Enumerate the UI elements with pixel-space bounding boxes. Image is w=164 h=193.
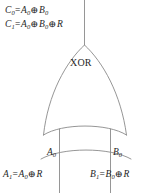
- equation-c0: C0=A0⊕B0: [5, 6, 48, 16]
- equation-c1-term1-sub: 0: [27, 23, 30, 30]
- equation-a1-lhs-sub: 1: [9, 173, 12, 180]
- equation-c1-lhs-sub: 1: [12, 23, 15, 30]
- input-label-b0-sub: 0: [119, 151, 122, 158]
- equation-b1-term1-sub: 0: [111, 173, 114, 180]
- input-label-b0-base: B: [113, 147, 119, 157]
- equation-c1-term1: A: [21, 19, 27, 29]
- equation-c1: C1=A0⊕B0⊕R: [5, 20, 63, 30]
- input-label-a0-base: A: [47, 147, 53, 157]
- equation-c0-term1: A: [21, 5, 27, 15]
- equation-b1-lhs: B: [90, 169, 96, 179]
- equation-c1-term2-sub: 0: [45, 23, 48, 30]
- equation-c0-term2-sub: 0: [45, 9, 48, 16]
- equation-c0-lhs-sub: 0: [12, 9, 15, 16]
- gate-bottom-arc: [44, 126, 127, 135]
- input-label-a0: A0: [47, 148, 56, 158]
- equation-c0-term1-sub: 0: [27, 9, 30, 16]
- equation-c1-term2: B: [39, 19, 45, 29]
- input-label-a0-sub: 0: [53, 151, 56, 158]
- equation-c0-term2: B: [39, 5, 45, 15]
- equation-a1: A1=A0⊕R: [3, 170, 42, 180]
- equation-a1-lhs: A: [3, 169, 9, 179]
- xor-operator-icon: ⊕: [30, 19, 39, 29]
- equation-a1-term2: R: [36, 169, 42, 179]
- equation-c0-lhs: C: [5, 5, 11, 15]
- xor-gate-figure: XOR C0=A0⊕B0 C1=A0⊕B0⊕R A0 B0 A1=A0⊕R B1…: [0, 0, 164, 193]
- xor-operator-icon: ⊕: [30, 5, 39, 15]
- gate-label: XOR: [70, 57, 92, 68]
- equation-c1-lhs: C: [5, 19, 11, 29]
- input-label-b0: B0: [113, 148, 122, 158]
- xor-operator-icon: ⊕: [48, 19, 57, 29]
- equation-b1-lhs-sub: 1: [96, 173, 99, 180]
- equation-c1-term3: R: [57, 19, 63, 29]
- equation-a1-term1-sub: 0: [24, 173, 27, 180]
- equation-b1: B1=B0⊕R: [90, 170, 129, 180]
- equation-b1-term2: R: [123, 169, 129, 179]
